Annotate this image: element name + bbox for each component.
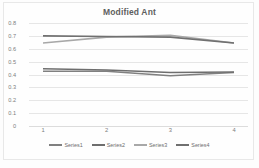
y-axis-tick-label: 0.2 bbox=[0, 97, 16, 103]
y-axis-tick-label: 0.7 bbox=[0, 33, 16, 39]
legend-line-swatch-icon bbox=[176, 144, 189, 146]
chart-legend: Series1Series2Series3Series4 bbox=[0, 142, 259, 148]
legend-item-series2[interactable]: Series2 bbox=[92, 142, 125, 148]
legend-label: Series1 bbox=[64, 142, 82, 148]
chart-title: Modified Ant bbox=[0, 7, 259, 17]
legend-label: Series3 bbox=[149, 142, 167, 148]
x-axis-tick-label: 2 bbox=[105, 127, 108, 133]
y-axis-tick-label: 0 bbox=[0, 123, 16, 129]
y-axis-tick-label: 0.8 bbox=[0, 20, 16, 26]
y-axis-tick-label: 0.5 bbox=[0, 59, 16, 65]
legend-item-series1[interactable]: Series1 bbox=[49, 142, 82, 148]
y-axis-tick-label: 0.4 bbox=[0, 72, 16, 78]
legend-label: Series2 bbox=[107, 142, 125, 148]
series-lines bbox=[29, 23, 248, 126]
y-axis-tick-label: 0.6 bbox=[0, 46, 16, 52]
legend-line-swatch-icon bbox=[92, 144, 105, 146]
x-axis-tick-labels: 1234 bbox=[29, 126, 248, 138]
x-axis-tick-label: 3 bbox=[169, 127, 172, 133]
legend-item-series3[interactable]: Series3 bbox=[134, 142, 167, 148]
plot-area: 0.80.70.60.50.40.30.20.10 bbox=[29, 23, 248, 126]
chart-container: Modified Ant 0.80.70.60.50.40.30.20.10 1… bbox=[0, 0, 259, 168]
y-axis-tick-label: 0.1 bbox=[0, 110, 16, 116]
legend-line-swatch-icon bbox=[134, 144, 147, 146]
x-axis-tick-label: 1 bbox=[41, 127, 44, 133]
legend-label: Series4 bbox=[191, 142, 209, 148]
legend-line-swatch-icon bbox=[49, 144, 62, 146]
x-axis-tick-label: 4 bbox=[232, 127, 235, 133]
legend-item-series4[interactable]: Series4 bbox=[176, 142, 209, 148]
y-axis-tick-label: 0.3 bbox=[0, 84, 16, 90]
